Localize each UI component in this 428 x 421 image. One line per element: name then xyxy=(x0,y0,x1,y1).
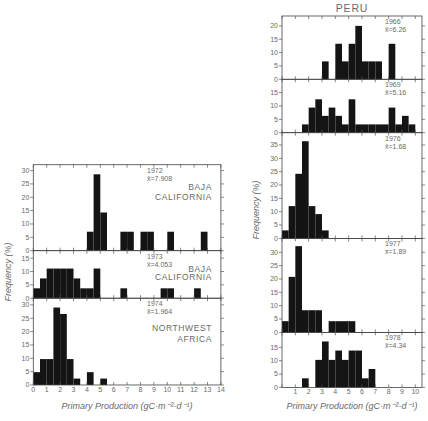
x-tick-label: 7 xyxy=(373,388,377,395)
histogram-bar xyxy=(309,206,316,238)
panel-1966: 051015201966x̄=6.26 xyxy=(270,16,425,83)
histogram-bar xyxy=(309,108,316,133)
y-tick-label: 20 xyxy=(22,194,30,201)
x-axis-title: Primary Production (gC·m⁻²·d⁻¹) xyxy=(61,401,192,411)
y-tick-label: 20 xyxy=(22,328,30,335)
x-tick-label: 8 xyxy=(387,388,391,395)
histogram-bar xyxy=(141,232,148,251)
x-tick-label: 9 xyxy=(400,388,404,395)
histogram-bar xyxy=(282,321,289,332)
y-tick-label: 15 xyxy=(270,36,278,43)
y-tick-label: 30 xyxy=(22,301,30,308)
histogram-bar xyxy=(147,232,154,251)
x-tick-label: 5 xyxy=(347,388,351,395)
histogram-bar xyxy=(309,310,316,332)
histogram-bar xyxy=(47,359,54,385)
histogram-bar xyxy=(289,277,296,333)
histogram-bar xyxy=(302,378,309,387)
y-tick-label: 5 xyxy=(274,116,278,123)
panel-mean-label: x̄=1.964 xyxy=(147,308,172,315)
histogram-bar xyxy=(369,369,376,387)
histogram-bar xyxy=(60,269,67,299)
y-tick-label: 10 xyxy=(270,302,278,309)
histogram-bar xyxy=(402,116,409,133)
histogram-bar xyxy=(67,359,74,385)
histogram-bar xyxy=(295,246,302,332)
histogram-bar xyxy=(315,214,322,238)
histogram-bar xyxy=(100,379,107,385)
histogram-bar xyxy=(167,232,174,251)
x-tick-label: 5 xyxy=(98,386,102,393)
x-tick-label: 10 xyxy=(163,386,171,393)
histogram-bar xyxy=(342,61,349,79)
y-tick-label: 0 xyxy=(25,247,29,254)
y-tick-label: 0 xyxy=(25,381,29,388)
y-tick-label: 10 xyxy=(270,208,278,215)
histogram-bar xyxy=(382,124,389,132)
y-tick-label: 10 xyxy=(270,102,278,109)
x-tick-label: 4 xyxy=(333,388,337,395)
histogram-bar xyxy=(375,61,382,79)
histogram-bar xyxy=(87,288,94,298)
x-tick-label: 11 xyxy=(177,386,184,393)
histogram-bar xyxy=(349,321,356,332)
panel-year-label: 1973 xyxy=(147,253,163,260)
x-tick-label: 3 xyxy=(72,386,76,393)
histogram-bar xyxy=(322,116,329,133)
histogram-bar xyxy=(74,278,81,298)
histogram-bar xyxy=(349,99,356,132)
histogram-bar xyxy=(342,124,349,132)
histogram-bar xyxy=(161,288,168,298)
panel-year-label: 1977 xyxy=(385,240,401,247)
y-tick-label: 15 xyxy=(270,344,278,351)
y-tick-label: 5 xyxy=(274,370,278,377)
histogram-bar xyxy=(289,206,296,238)
panel-year-label: 1969 xyxy=(385,81,401,88)
y-tick-label: 0 xyxy=(274,76,278,83)
panel-mean-label: x̄=1.89 xyxy=(385,248,406,255)
panel-1976: 051015202530351976x̄=1.68 xyxy=(270,133,425,242)
histogram-bar xyxy=(94,174,101,250)
histogram-bar xyxy=(395,124,402,132)
histogram-bar xyxy=(315,360,322,388)
y-tick-label: 0 xyxy=(274,129,278,136)
y-tick-label: 0 xyxy=(274,384,278,391)
x-tick-label: 10 xyxy=(411,388,419,395)
y-tick-label: 15 xyxy=(22,207,30,214)
histogram-bar xyxy=(120,232,127,251)
panel-year-label: 1976 xyxy=(385,135,401,142)
panel-1973: 0510151973x̄=4.053BAJACALIFORNIA xyxy=(22,251,224,302)
panel-1972: 0510152025301972x̄=7.908BAJACALIFORNIA xyxy=(22,165,224,254)
x-tick-label: 2 xyxy=(307,388,311,395)
x-tick-label: 14 xyxy=(217,386,225,393)
histogram-bar xyxy=(355,351,362,388)
y-tick-label: 20 xyxy=(270,22,278,29)
histogram-bar xyxy=(335,116,342,133)
y-tick-label: 10 xyxy=(22,268,30,275)
histogram-bar xyxy=(94,269,101,299)
histogram-bar xyxy=(362,61,369,79)
histogram-bar xyxy=(33,372,40,385)
histogram-bar xyxy=(67,269,74,299)
histogram-bar xyxy=(40,359,47,385)
panel-region-label: CALIFORNIA xyxy=(155,272,212,282)
panel-year-label: 1972 xyxy=(147,167,163,174)
histogram-bar xyxy=(201,232,208,251)
panel-1969: 0510151969x̄=5.16 xyxy=(270,79,425,136)
x-tick-label: 1 xyxy=(293,388,297,395)
histogram-bar xyxy=(349,44,356,80)
figure-canvas: 0510152025301972x̄=7.908BAJACALIFORNIA05… xyxy=(0,0,428,421)
panel-mean-label: x̄=1.68 xyxy=(385,143,406,150)
panel-region-label: NORTHWEST xyxy=(152,323,212,333)
panel-mean-label: x̄=7.908 xyxy=(147,175,172,182)
histogram-bar xyxy=(322,341,329,387)
panel-1977: 0510152025301977x̄=1.89 xyxy=(270,238,425,335)
panel-region-label: BAJA xyxy=(188,182,212,192)
histogram-bar xyxy=(362,378,369,387)
y-tick-label: 25 xyxy=(270,262,278,269)
histogram-bar xyxy=(362,124,369,132)
histogram-bar xyxy=(329,360,336,388)
y-tick-label: 5 xyxy=(25,368,29,375)
histogram-bar xyxy=(295,174,302,239)
x-tick-label: 12 xyxy=(190,386,198,393)
